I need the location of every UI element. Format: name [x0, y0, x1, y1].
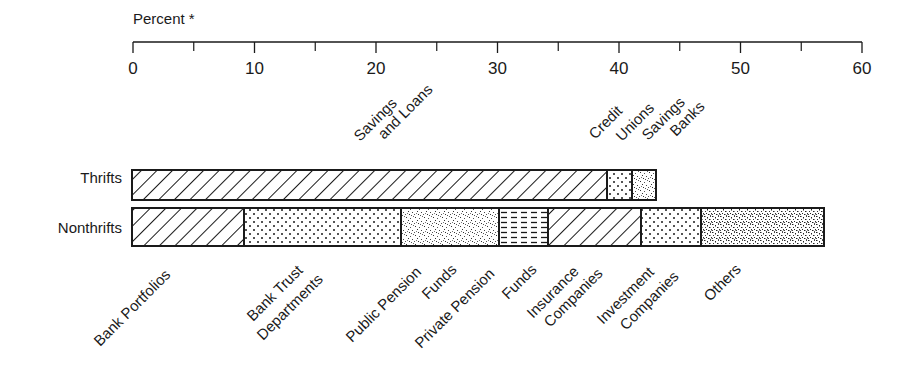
segment-bank-portfolios — [132, 208, 244, 246]
top-labels: Savings and Loans Credit Unions Savings … — [350, 81, 708, 145]
tick-label-30: 30 — [488, 59, 507, 78]
axis-label: Percent * — [133, 10, 195, 27]
label-private-pension-2: Funds — [498, 261, 540, 303]
tick-label-50: 50 — [731, 59, 750, 78]
label-public-pension-1: Public Pension — [342, 263, 424, 345]
stacked-bar-chart: Percent * 0 10 20 30 40 50 60 — [0, 0, 914, 375]
bottom-labels: Bank Portfolios Bank Trust Departments P… — [90, 260, 744, 351]
x-axis: Percent * 0 10 20 30 40 50 60 — [128, 10, 871, 78]
segment-bank-trust-departments — [244, 208, 401, 246]
segment-savings-banks — [632, 170, 656, 200]
tick-label-10: 10 — [245, 59, 264, 78]
bar-thrifts — [132, 170, 656, 200]
row-label-thrifts: Thrifts — [80, 169, 122, 186]
segment-public-pension-funds — [401, 208, 499, 246]
segment-investment-companies — [641, 208, 701, 246]
tick-labels: 0 10 20 30 40 50 60 — [128, 59, 871, 78]
segment-savings-and-loans — [132, 170, 607, 200]
segment-credit-unions — [607, 170, 632, 200]
major-ticks — [133, 42, 862, 53]
label-bank-portfolios: Bank Portfolios — [90, 266, 173, 349]
segment-private-pension-funds — [499, 208, 548, 246]
row-label-nonthrifts: Nonthrifts — [58, 219, 122, 236]
tick-label-40: 40 — [610, 59, 629, 78]
tick-label-60: 60 — [853, 59, 872, 78]
segment-insurance-companies — [548, 208, 641, 246]
bar-nonthrifts — [132, 208, 824, 246]
label-others: Others — [700, 260, 744, 304]
segment-others — [701, 208, 824, 246]
tick-label-20: 20 — [367, 59, 386, 78]
tick-label-0: 0 — [128, 59, 137, 78]
